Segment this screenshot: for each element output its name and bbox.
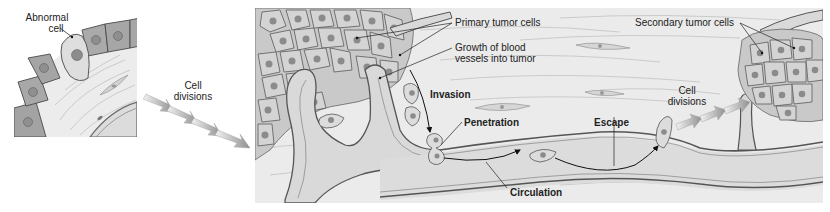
label-cell-divisions-left: Cell divisions <box>168 80 218 102</box>
label-abnormal-cell: Abnormal cell <box>22 12 72 34</box>
label-circulation: Circulation <box>510 187 562 198</box>
label-cell-divisions-left-line2: divisions <box>168 91 218 102</box>
label-primary-tumor-cells: Primary tumor cells <box>455 17 541 28</box>
label-cell-divisions-right-line2: divisions <box>662 96 712 107</box>
label-secondary-tumor-cells: Secondary tumor cells <box>635 17 734 28</box>
metastasis-panel <box>255 8 823 203</box>
label-penetration: Penetration <box>464 117 519 128</box>
label-growth-of-blood-vessels: Growth of blood vessels into tumor <box>455 42 536 64</box>
cell-division-arrows <box>143 94 250 148</box>
label-growth-line2: vessels into tumor <box>455 53 536 64</box>
label-growth-line1: Growth of blood <box>455 42 536 53</box>
label-cell-divisions-right-line1: Cell <box>662 85 712 96</box>
label-cell-divisions-right: Cell divisions <box>662 85 712 107</box>
label-abnormal-cell-line1: Abnormal <box>22 12 72 23</box>
label-invasion: Invasion <box>430 89 471 100</box>
label-abnormal-cell-line2: cell <box>22 23 72 34</box>
label-cell-divisions-left-line1: Cell <box>168 80 218 91</box>
label-escape: Escape <box>594 117 629 128</box>
